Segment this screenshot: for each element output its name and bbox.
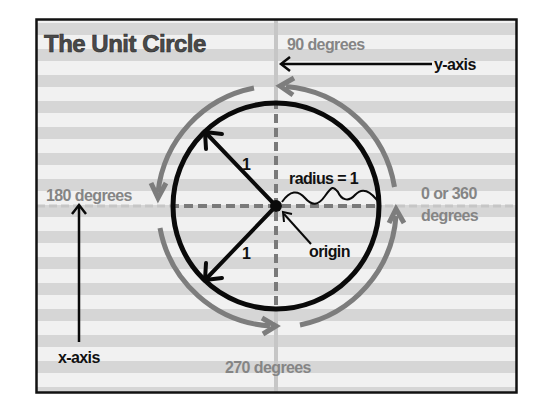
diagram-title: The Unit Circle <box>44 30 206 57</box>
label-90-degrees: 90 degrees <box>287 36 365 53</box>
label-0-degrees-word: degrees <box>421 207 479 224</box>
label-radius-upper-value: 1 <box>242 156 251 173</box>
label-radius-lower-value: 1 <box>242 245 251 262</box>
label-y-axis: y-axis <box>434 56 476 73</box>
label-0-or-360: 0 or 360 <box>421 185 477 202</box>
unit-circle-diagram: The Unit Circle 90 degrees y-axis 180 de… <box>0 0 547 416</box>
label-180-degrees: 180 degrees <box>46 187 133 204</box>
label-270-degrees: 270 degrees <box>225 359 312 376</box>
label-radius: radius = 1 <box>289 170 359 187</box>
label-origin: origin <box>309 243 350 260</box>
label-x-axis: x-axis <box>58 349 100 366</box>
origin-dot <box>270 200 282 212</box>
